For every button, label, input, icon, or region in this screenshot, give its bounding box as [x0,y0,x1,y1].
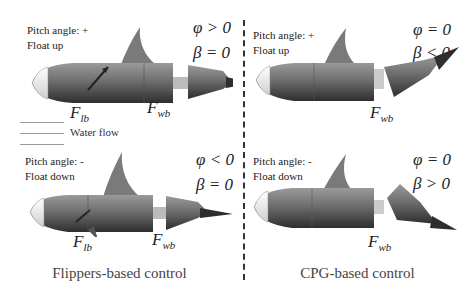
force-wb: Fwb [370,103,393,124]
section-divider [243,20,245,280]
panel-flippers-float-up: Pitch angle: + Float up φ > 0 β = 0 Flb … [0,0,235,140]
robotic-fish-illustration [252,152,457,237]
force-wb: Fwb [152,230,175,251]
force-lb: Flb [73,232,92,253]
flow-arrow [20,133,64,134]
flow-arrow [20,144,64,145]
force-wb: Fwb [368,232,391,253]
caption-cpg-based-control: CPG-based control [240,265,471,282]
force-lb: Flb [70,103,89,124]
force-wb: Fwb [147,98,170,119]
flow-arrow [20,122,64,123]
panel-cpg-float-up: Pitch angle: + Float up φ = 0 β < 0 Fwb [240,0,471,140]
caption-flippers-based-control: Flippers-based control [2,265,237,282]
water-flow-label: Water flow [70,126,119,138]
robotic-fish-illustration [28,25,233,110]
robotic-fish-illustration [254,25,459,110]
robotic-fish-illustration [28,152,233,237]
